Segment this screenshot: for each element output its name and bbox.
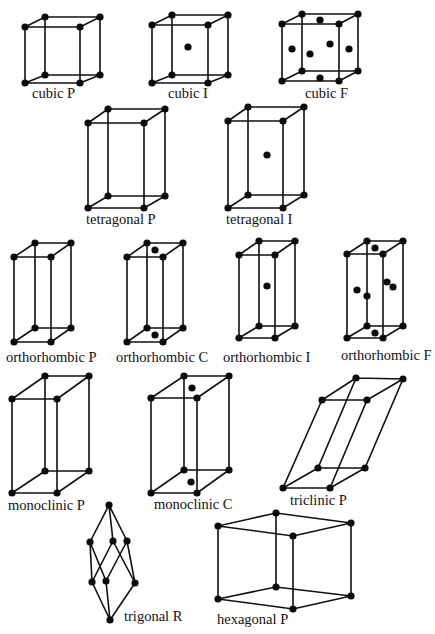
body-center-atom	[263, 151, 270, 158]
lattice-label: trigonal R	[124, 608, 183, 624]
lattice-label: orthorhombic F	[341, 347, 432, 363]
lattice-orthorhombic-f: orthorhombic F	[341, 237, 432, 363]
lattice-label: orthorhombic C	[116, 349, 208, 365]
lattice-label: hexagonal P	[217, 611, 288, 627]
lattice-points	[279, 374, 406, 491]
lattice-label: monoclinic P	[8, 497, 85, 513]
lattice-label: tetragonal P	[86, 211, 156, 227]
lattice-label: cubic F	[305, 85, 348, 101]
lattice-cubic-f: cubic F	[278, 10, 361, 101]
lattice-points	[10, 239, 74, 345]
lattice-cubic-i: cubic I	[148, 11, 231, 101]
lattice-monoclinic-p: monoclinic P	[8, 372, 93, 513]
lattice-label: triclinic P	[290, 492, 347, 508]
lattice-monoclinic-c: monoclinic C	[147, 372, 232, 512]
lattice-label: monoclinic C	[154, 496, 233, 512]
lattice-label: tetragonal I	[226, 211, 293, 227]
lattice-orthorhombic-p: orthorhombic P	[6, 239, 97, 365]
lattice-label: cubic P	[32, 85, 75, 101]
lattice-orthorhombic-i: orthorhombic I	[223, 237, 311, 365]
lattice-label: orthorhombic P	[6, 349, 97, 365]
lattice-points	[214, 509, 354, 612]
lattice-cubic-p: cubic P	[21, 13, 103, 101]
lattice-trigonal-r: trigonal R	[86, 501, 182, 624]
lattice-tetragonal-i: tetragonal I	[224, 103, 307, 227]
body-center-atom	[184, 43, 191, 50]
lattice-points	[123, 239, 186, 345]
lattice-points	[278, 10, 361, 84]
body-center-atom	[263, 282, 270, 289]
lattice-label: cubic I	[168, 85, 208, 101]
lattice-label: orthorhombic I	[223, 349, 311, 365]
lattice-triclinic-p: triclinic P	[279, 374, 406, 508]
lattice-hexagonal-p: hexagonal P	[214, 509, 354, 627]
bravais-lattice-figure: cubic P cubic I cubic F	[0, 0, 435, 634]
lattice-tetragonal-p: tetragonal P	[84, 105, 168, 227]
lattice-orthorhombic-c: orthorhombic C	[116, 239, 208, 365]
